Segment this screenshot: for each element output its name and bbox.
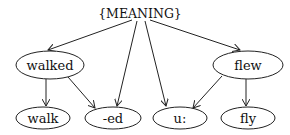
node-flew: flew xyxy=(213,51,283,79)
root-label-meaning: {MEANING} xyxy=(98,6,182,21)
node-u: u: xyxy=(153,107,207,129)
edge-meaning-ed xyxy=(117,21,137,106)
node-label-flew: flew xyxy=(234,58,262,73)
node-label-walk: walk xyxy=(28,111,59,126)
edge-meaning-walked xyxy=(48,20,132,50)
meaning-diagram: {MEANING} walked flew walk -ed u: fly xyxy=(0,0,290,135)
edge-meaning-u xyxy=(145,21,166,106)
node-label-u: u: xyxy=(174,111,187,126)
edge-meaning-flew xyxy=(150,20,240,50)
node-label-fly: fly xyxy=(240,111,257,126)
node-label-walked: walked xyxy=(27,58,74,73)
node-walked: walked xyxy=(16,51,84,79)
edge-flew-u xyxy=(193,76,222,108)
node-walk: walk xyxy=(16,107,70,129)
node-label-ed: -ed xyxy=(103,111,123,126)
edge-walked-ed xyxy=(68,77,95,108)
node-ed: -ed xyxy=(85,107,141,129)
node-fly: fly xyxy=(221,107,275,129)
